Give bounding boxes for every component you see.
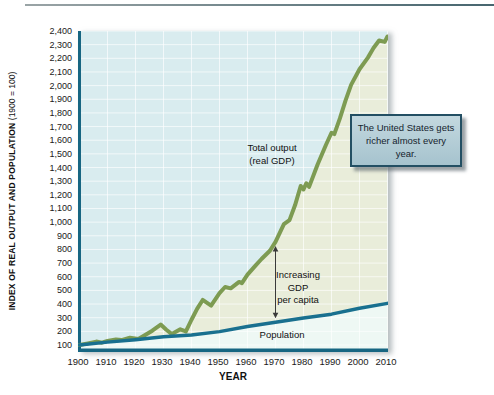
x-tick-label: 1910 xyxy=(86,356,126,367)
gdp-series-label-line1: Total output xyxy=(217,141,327,154)
x-tick-label: 1970 xyxy=(254,356,294,367)
x-tick-label: 2010 xyxy=(366,356,406,367)
y-axis-line xyxy=(78,31,81,352)
x-tick-label: 1980 xyxy=(282,356,322,367)
x-axis-line xyxy=(78,349,388,353)
gdp-series-label: Total output (real GDP) xyxy=(217,141,327,167)
x-tick-label: 1940 xyxy=(170,356,210,367)
x-tick-label: 1950 xyxy=(198,356,238,367)
chart-svg xyxy=(78,31,388,352)
y-axis-title-main: INDEX OF REAL OUTPUT AND POPULATION xyxy=(7,123,17,311)
x-tick-label: 1900 xyxy=(58,356,98,367)
plot-area xyxy=(78,31,388,352)
x-tick-label: 1990 xyxy=(310,356,350,367)
x-tick-label: 1920 xyxy=(114,356,154,367)
increasing-gdp-line1: Increasing xyxy=(256,269,340,282)
callout-text: The United States gets richer almost eve… xyxy=(358,122,455,159)
x-tick-label: 1960 xyxy=(226,356,266,367)
increasing-gdp-line2: GDP xyxy=(256,282,340,295)
x-tick-label: 1930 xyxy=(142,356,182,367)
increasing-gdp-line3: per capita xyxy=(256,294,340,307)
gdp-series-label-line2: (real GDP) xyxy=(217,154,327,167)
figure-container: INDEX OF REAL OUTPUT AND POPULATION (190… xyxy=(0,0,494,395)
x-axis-title: YEAR xyxy=(183,371,283,382)
top-rule-divider xyxy=(25,4,494,6)
x-tick-label: 2000 xyxy=(338,356,378,367)
y-axis-title: INDEX OF REAL OUTPUT AND POPULATION (190… xyxy=(7,1,21,381)
y-axis-title-paren: (1900 = 100) xyxy=(7,72,17,123)
population-series-label: Population xyxy=(238,329,326,342)
increasing-gdp-annotation: Increasing GDP per capita xyxy=(256,269,340,307)
callout-box: The United States gets richer almost eve… xyxy=(350,114,462,167)
